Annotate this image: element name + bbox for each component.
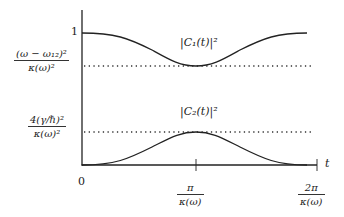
fraction-denominator: κ(ω)² — [32, 127, 63, 140]
fraction-denominator: κ(ω)² — [26, 61, 57, 74]
fraction-numerator: (ω − ω₁₂)² — [14, 48, 69, 60]
y-tick-label-c1-min: (ω − ω₁₂)² κ(ω)² — [14, 48, 69, 74]
x-tick-label-zero: 0 — [78, 175, 85, 188]
fraction-numerator: π — [185, 182, 196, 194]
y-tick-label-one: 1 — [71, 25, 78, 38]
population-plot — [0, 0, 344, 217]
fraction-denominator: κ(ω) — [177, 195, 204, 208]
y-tick-label-c2-max: 4(γ/ℏ)² κ(ω)² — [28, 114, 66, 140]
fraction-numerator: 2π — [303, 182, 320, 194]
c2-curve — [82, 132, 307, 165]
x-tick-label-half: π κ(ω) — [177, 182, 204, 208]
x-axis-label: t — [325, 157, 329, 170]
c1-curve-label: |C₁(t)|² — [180, 36, 218, 49]
c2-curve-label: |C₂(t)|² — [180, 105, 218, 118]
fraction-numerator: 4(γ/ℏ)² — [28, 114, 66, 126]
fraction-denominator: κ(ω) — [298, 195, 325, 208]
x-tick-label-full: 2π κ(ω) — [298, 182, 325, 208]
